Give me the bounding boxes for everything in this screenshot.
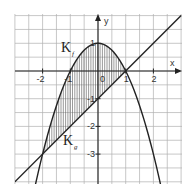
x-axis-label: x xyxy=(170,58,175,68)
x-tick-label: -2 xyxy=(37,74,45,84)
x-tick-label: -1 xyxy=(64,74,72,84)
k-f-label: K xyxy=(61,40,71,55)
y-tick-label: -1 xyxy=(87,94,95,104)
function-graph: -2-10121-1-2-3 x y K f K g xyxy=(0,0,190,195)
y-tick-label: -2 xyxy=(87,121,95,131)
y-axis-label: y xyxy=(104,16,109,26)
k-f-subscript: f xyxy=(72,50,75,58)
x-tick-label: 2 xyxy=(151,74,156,84)
x-tick-label: 0 xyxy=(100,74,105,84)
x-tick-label: 1 xyxy=(124,74,129,84)
k-g-subscript: g xyxy=(74,143,78,151)
k-g-label: K xyxy=(63,133,73,148)
y-tick-label: -3 xyxy=(87,149,95,159)
y-tick-label: 1 xyxy=(90,38,95,48)
